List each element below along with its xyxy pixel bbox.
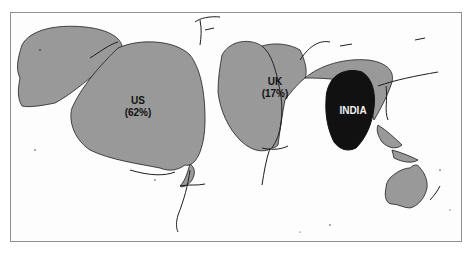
label-us: US (62%): [118, 95, 158, 119]
label-india-name: INDIA: [330, 105, 376, 117]
label-uk-name: UK: [255, 76, 295, 88]
region-southeast-asia: [377, 125, 402, 148]
label-uk: UK (17%): [255, 76, 295, 100]
region-australia: [385, 165, 427, 208]
label-us-share: (62%): [118, 107, 158, 119]
label-us-name: US: [118, 95, 158, 107]
label-uk-share: (17%): [255, 88, 295, 100]
label-india: INDIA: [330, 105, 376, 117]
cartogram-map: [0, 0, 473, 253]
